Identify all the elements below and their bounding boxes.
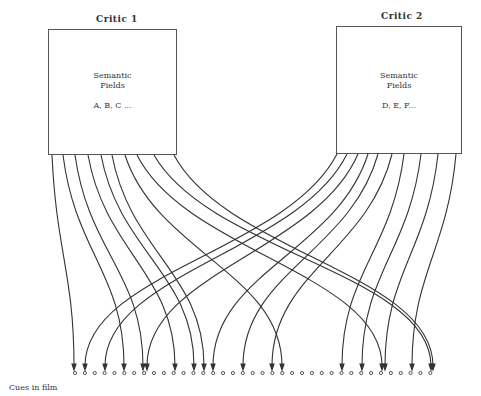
cue-circle	[419, 371, 422, 374]
cue-circle	[241, 371, 244, 374]
cue-circle	[300, 371, 303, 374]
cue-circle	[261, 371, 264, 374]
mapping-arrow	[52, 155, 74, 366]
mapping-arrow	[272, 154, 392, 366]
arrowhead-icon	[145, 364, 149, 370]
cue-circle	[142, 371, 145, 374]
arrowhead-icon	[103, 364, 107, 370]
cue-circle	[370, 371, 373, 374]
cue-circle	[162, 371, 165, 374]
cue-circle	[123, 371, 126, 374]
arrowhead-icon	[410, 364, 414, 370]
mapping-arrow	[125, 155, 282, 366]
cue-circle	[330, 371, 333, 374]
cue-circle	[340, 371, 343, 374]
cue-circle	[93, 371, 96, 374]
arrowhead-icon	[72, 364, 76, 370]
arrowhead-icon	[173, 364, 177, 370]
cue-circle	[192, 371, 195, 374]
cue-circle	[389, 371, 392, 374]
cue-circle	[83, 371, 86, 374]
arrowhead-icon	[141, 364, 145, 370]
mapping-arrow	[137, 155, 382, 366]
mapping-arrow	[385, 154, 438, 366]
cue-circle	[251, 371, 254, 374]
arrowhead-icon	[202, 364, 206, 370]
cue-circle	[212, 371, 215, 374]
arrowhead-icon	[241, 364, 245, 370]
cue-circle	[182, 371, 185, 374]
cue-circle	[231, 371, 234, 374]
cue-circle	[379, 371, 382, 374]
cue-circle	[281, 371, 284, 374]
mapping-arrow	[105, 154, 347, 366]
mapping-arrow	[362, 154, 421, 366]
arrowhead-icon	[122, 364, 126, 370]
cue-circle	[320, 371, 323, 374]
mapping-arrow	[88, 155, 175, 366]
cue-circle	[113, 371, 116, 374]
arrowhead-icon	[83, 364, 87, 370]
arrowhead-icon	[280, 364, 284, 370]
cue-circle	[152, 371, 155, 374]
cue-circle	[133, 371, 136, 374]
cue-circle	[399, 371, 402, 374]
arrowhead-icon	[192, 364, 196, 370]
arrowhead-icon	[360, 364, 364, 370]
mapping-arrow	[75, 155, 143, 366]
arrow-diagram	[0, 0, 481, 396]
cue-circle	[291, 371, 294, 374]
cue-circle	[73, 371, 76, 374]
cue-circle	[172, 371, 175, 374]
cue-circle	[310, 371, 313, 374]
cue-circle	[103, 371, 106, 374]
arrowhead-icon	[383, 364, 387, 370]
cue-circle	[429, 371, 432, 374]
mapping-arrow	[412, 154, 456, 366]
cue-circle	[202, 371, 205, 374]
arrowhead-icon	[211, 364, 215, 370]
mapping-arrow	[243, 154, 378, 366]
arrowhead-icon	[270, 364, 274, 370]
cue-circle	[350, 371, 353, 374]
cue-circle	[271, 371, 274, 374]
cue-circle	[409, 371, 412, 374]
cue-circle	[360, 371, 363, 374]
arrowhead-icon	[340, 364, 344, 370]
cue-circle	[221, 371, 224, 374]
